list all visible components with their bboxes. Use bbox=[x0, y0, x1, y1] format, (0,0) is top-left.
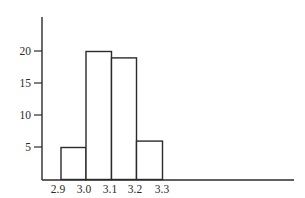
histogram-bar bbox=[61, 148, 86, 180]
x-tick-label: 3.1 bbox=[103, 183, 118, 195]
y-tick-label: 10 bbox=[20, 109, 32, 121]
y-tick-label: 20 bbox=[20, 45, 32, 57]
y-tick-label: 15 bbox=[20, 77, 32, 89]
histogram-bar bbox=[86, 52, 112, 180]
x-tick-label: 3.3 bbox=[155, 183, 170, 195]
histogram-chart: 20 15 10 5 2.9 3.0 3.1 3.2 3.3 bbox=[0, 0, 305, 198]
y-ticks bbox=[34, 51, 42, 147]
x-tick-label: 3.0 bbox=[77, 183, 92, 195]
x-tick-labels: 2.9 3.0 3.1 3.2 3.3 bbox=[51, 183, 170, 195]
histogram-bar bbox=[112, 58, 137, 180]
y-tick-labels: 20 15 10 5 bbox=[20, 45, 32, 153]
histogram-bar bbox=[137, 141, 163, 179]
histogram-bars bbox=[61, 52, 163, 180]
x-tick-label: 3.2 bbox=[128, 183, 143, 195]
y-tick-label: 5 bbox=[25, 141, 31, 153]
x-tick-label: 2.9 bbox=[51, 183, 66, 195]
